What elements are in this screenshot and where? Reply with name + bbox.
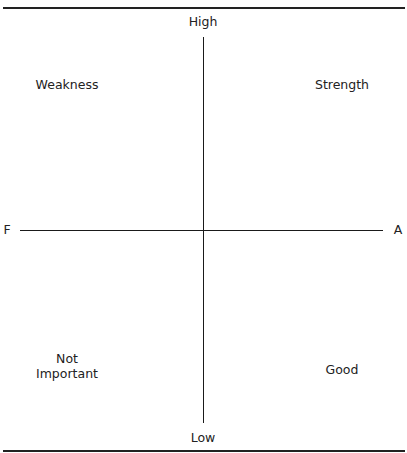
quadrant-label-not-important: Not Important bbox=[17, 351, 117, 381]
figure-caption-clipped bbox=[0, 0, 407, 5]
quadrant-label-strength: Strength bbox=[292, 77, 392, 92]
axis-label-f: F bbox=[0, 222, 14, 237]
horizontal-axis bbox=[20, 230, 383, 232]
top-border-rule bbox=[3, 7, 405, 9]
quadrant-label-good: Good bbox=[292, 362, 392, 377]
axis-label-low: Low bbox=[173, 430, 233, 445]
axis-label-a: A bbox=[391, 222, 405, 237]
bottom-border-rule bbox=[3, 450, 405, 452]
quadrant-label-not-important-line-2: Important bbox=[17, 366, 117, 381]
axis-label-high: High bbox=[173, 14, 233, 29]
quadrant-label-not-important-line-1: Not bbox=[17, 351, 117, 366]
quadrant-label-weakness: Weakness bbox=[17, 77, 117, 92]
